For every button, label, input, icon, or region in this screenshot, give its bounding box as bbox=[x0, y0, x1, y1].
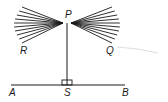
left-line-fan bbox=[14, 7, 63, 43]
label-s: S bbox=[64, 87, 71, 98]
faint-curve bbox=[117, 47, 158, 53]
label-b: B bbox=[122, 87, 129, 98]
fan-line bbox=[19, 23, 63, 39]
geometry-diagram: P R Q A S B bbox=[0, 0, 168, 102]
label-r: R bbox=[20, 45, 27, 56]
fan-line bbox=[22, 7, 63, 23]
label-p: P bbox=[65, 9, 72, 20]
fan-line bbox=[71, 15, 117, 23]
fan-line bbox=[71, 23, 115, 39]
fan-line bbox=[71, 7, 112, 23]
diagram-canvas: P R Q A S B bbox=[0, 0, 168, 102]
label-q: Q bbox=[106, 45, 114, 56]
fan-line bbox=[17, 15, 63, 23]
label-a: A bbox=[8, 87, 16, 98]
right-line-fan bbox=[71, 7, 120, 43]
